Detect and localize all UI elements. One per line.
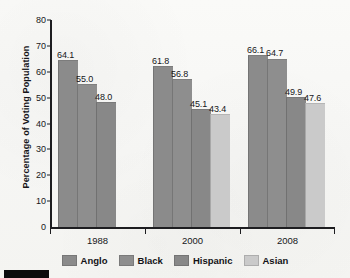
x-tick-1: [145, 229, 146, 234]
bar-2000-asian[interactable]: [210, 114, 230, 227]
y-tick-60: 60: [36, 67, 46, 77]
x-tick-2: [240, 229, 241, 234]
y-tick-40: 40: [36, 119, 46, 129]
bar-label-2008-asian: 47.6: [304, 93, 321, 103]
x-tick-end: [334, 229, 335, 234]
bar-chart: Percentage of Voting Population 80 70 60…: [0, 0, 350, 278]
legend-label-black: Black: [138, 255, 163, 266]
legend-label-asian: Asian: [263, 255, 289, 266]
x-label-2000: 2000: [145, 235, 240, 246]
bar-2000-black[interactable]: [172, 79, 192, 227]
bar-group-2008: 66.1 64.7 49.9 47.6: [248, 20, 335, 227]
y-tick-50: 50: [36, 93, 46, 103]
y-tick-mark-70: [47, 45, 51, 46]
bar-label-2000-hispanic: 45.1: [190, 99, 207, 109]
x-tick-start: [50, 229, 51, 234]
legend-swatch-hispanic-icon: [174, 255, 189, 266]
bar-label-2008-black: 64.7: [266, 48, 283, 58]
bar-2000-hispanic[interactable]: [191, 109, 211, 227]
y-tick-mark-60: [47, 71, 51, 72]
bar-1988-black[interactable]: [77, 84, 97, 227]
y-tick-mark-10: [47, 201, 51, 202]
legend-label-anglo: Anglo: [81, 255, 108, 266]
bar-label-1988-hispanic: 48.0: [95, 92, 112, 102]
x-axis-line: [50, 227, 335, 229]
y-tick-80: 80: [36, 15, 46, 25]
y-tick-30: 30: [36, 144, 46, 154]
bar-label-2008-anglo: 66.1: [247, 45, 264, 55]
legend-item-hispanic[interactable]: Hispanic: [174, 255, 233, 266]
bar-2008-asian[interactable]: [305, 103, 325, 227]
bar-group-2000: 61.8 56.8 45.1 43.4: [153, 20, 240, 227]
legend-swatch-anglo-icon: [62, 255, 77, 266]
y-tick-0: 0: [41, 222, 46, 232]
scan-edge-artifact: [4, 270, 49, 278]
legend-item-black[interactable]: Black: [119, 255, 163, 266]
legend-swatch-black-icon: [119, 255, 134, 266]
bar-2000-anglo[interactable]: [153, 66, 173, 227]
legend-item-asian[interactable]: Asian: [244, 255, 289, 266]
plot-area: 80 70 60 50 40 30 20 10 0 64.1 55.0 48.0: [50, 20, 335, 229]
bar-group-1988: 64.1 55.0 48.0: [58, 20, 145, 227]
bar-label-1988-anglo: 64.1: [57, 50, 74, 60]
legend-item-anglo[interactable]: Anglo: [62, 255, 108, 266]
y-tick-mark-50: [47, 97, 51, 98]
bar-label-2000-asian: 43.4: [209, 104, 226, 114]
legend-swatch-asian-icon: [244, 255, 259, 266]
bar-2008-black[interactable]: [267, 59, 287, 227]
x-label-2008: 2008: [240, 235, 335, 246]
y-axis-title: Percentage of Voting Population: [21, 22, 31, 212]
bar-label-2000-black: 56.8: [171, 69, 188, 79]
chart-legend: Anglo Black Hispanic Asian: [0, 255, 350, 266]
y-tick-20: 20: [36, 170, 46, 180]
y-tick-mark-80: [47, 20, 51, 21]
y-tick-mark-20: [47, 175, 51, 176]
bar-label-2008-hispanic: 49.9: [285, 87, 302, 97]
y-tick-mark-30: [47, 149, 51, 150]
bar-label-1988-black: 55.0: [76, 74, 93, 84]
bar-2008-hispanic[interactable]: [286, 97, 306, 227]
bar-2008-anglo[interactable]: [248, 55, 268, 227]
legend-label-hispanic: Hispanic: [193, 255, 233, 266]
y-axis-line: [50, 20, 52, 229]
y-tick-mark-40: [47, 123, 51, 124]
y-tick-70: 70: [36, 41, 46, 51]
bar-label-2000-anglo: 61.8: [152, 56, 169, 66]
bar-1988-anglo[interactable]: [58, 60, 78, 227]
bar-1988-hispanic[interactable]: [96, 102, 116, 227]
x-label-1988: 1988: [50, 235, 145, 246]
y-tick-10: 10: [36, 196, 46, 206]
